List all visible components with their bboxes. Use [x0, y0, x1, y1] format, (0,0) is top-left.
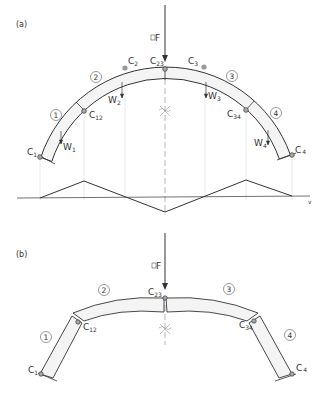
panel-b: (b) F [16, 233, 307, 381]
label-c34: C34 [227, 109, 241, 120]
force-arrow-icon [162, 5, 168, 62]
panel-b-label: (b) [16, 250, 27, 259]
segment-4-label: 4 [274, 109, 279, 118]
arch-mechanism-diagram: (a) [0, 0, 329, 402]
label-c1-b: C1 [28, 365, 38, 376]
label-c23-b: C23 [148, 287, 162, 298]
label-c12: C12 [89, 110, 103, 121]
hinge-c4-icon [290, 153, 295, 158]
force-arrow-b-icon [162, 233, 168, 290]
block-1 [40, 316, 82, 378]
label-c12-b: C12 [83, 322, 97, 333]
segment-2-label: 2 [94, 73, 99, 82]
segment-1-label: 1 [54, 111, 59, 120]
segment-3-label: 3 [230, 72, 235, 81]
block-2 [73, 298, 164, 321]
segment-2-b-label: 2 [102, 286, 107, 295]
segment-3-b-label: 3 [227, 285, 232, 294]
velocity-profile [40, 180, 292, 212]
centroid-c3-icon [201, 64, 206, 69]
hinge-c1-b-icon [39, 372, 43, 376]
block-4 [249, 316, 292, 378]
segment-4-b-label: 4 [288, 331, 293, 340]
hinge-c34-icon [244, 108, 249, 113]
label-c3: C3 [188, 56, 198, 67]
segment-1-b-label: 1 [44, 333, 49, 342]
panel-a-label: (a) [16, 20, 27, 29]
label-w4: W4 [254, 138, 267, 149]
label-c23: C23 [150, 56, 164, 67]
hinge-c12-icon [82, 109, 87, 114]
force-label: F [155, 33, 160, 43]
velocity-baseline [17, 196, 310, 198]
label-c2: C2 [128, 56, 138, 67]
hinge-c23-icon [163, 67, 168, 72]
centroid-c2-icon [122, 65, 127, 70]
label-c4-b: C4 [296, 363, 307, 373]
label-w1: W1 [63, 142, 76, 153]
label-c4: C4 [295, 145, 306, 155]
panel-a: (a) [16, 5, 312, 215]
label-w3: W3 [208, 91, 221, 102]
hinge-c34-b-icon [252, 319, 256, 323]
hinge-c12-b-icon [76, 320, 80, 324]
hinge-c1-icon [38, 155, 43, 160]
hinge-c4-b-icon [290, 372, 294, 376]
hinge-c23-b-icon [163, 296, 167, 300]
block-3 [166, 298, 258, 321]
label-c1: C1 [27, 147, 37, 158]
label-w2: W2 [108, 95, 121, 106]
force-label-b: F [156, 261, 161, 271]
velocity-axis-label: v [308, 198, 312, 205]
